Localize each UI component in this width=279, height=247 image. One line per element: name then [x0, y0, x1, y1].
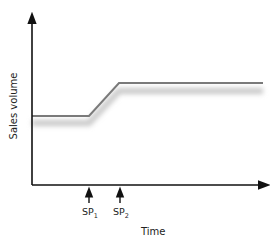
series-line	[32, 83, 263, 116]
x-axis-label: Time	[141, 226, 165, 237]
sp2-label: SP2	[113, 206, 129, 220]
series-shadow	[32, 91, 263, 123]
chart-canvas	[0, 0, 279, 247]
y-axis-label: Sales volume	[8, 71, 22, 141]
sp1-label: SP1	[82, 206, 98, 220]
